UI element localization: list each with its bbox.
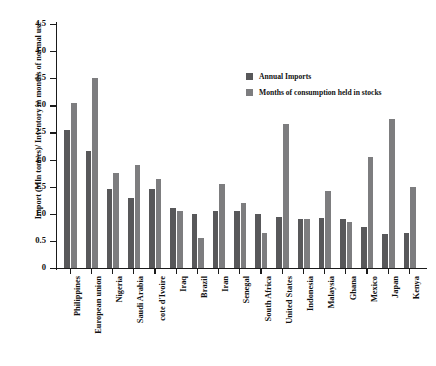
bar	[241, 203, 247, 268]
bar	[255, 214, 261, 268]
x-axis-category-label: Iran	[221, 276, 230, 292]
bar	[213, 211, 219, 268]
y-axis-tick: 4.0	[50, 51, 56, 52]
bar-group	[62, 24, 83, 268]
bar-group	[359, 24, 380, 268]
legend-item-months-of-consumption: Months of consumption held in stocks	[246, 88, 382, 97]
x-axis-category-label: Ghana	[349, 276, 358, 300]
bar-group	[274, 24, 295, 268]
x-axis-tick	[197, 268, 198, 274]
bar-group	[190, 24, 211, 268]
x-axis-category-label: Japan	[391, 276, 400, 298]
bar-group	[380, 24, 401, 268]
bar	[325, 191, 331, 268]
bar	[149, 189, 155, 268]
bar-group	[168, 24, 189, 268]
plot-area: 00.51.01.52.02.53.03.54.04.5PhilippinesE…	[56, 24, 426, 268]
y-axis-line	[56, 22, 57, 270]
x-axis-tick	[409, 268, 410, 274]
x-axis-category-label: Mexico	[370, 276, 379, 302]
bar-group	[147, 24, 168, 268]
x-axis-category-label: Malaysia	[327, 276, 336, 309]
y-axis-tick: 3.5	[50, 78, 56, 79]
bar	[64, 130, 70, 268]
bar	[276, 217, 282, 269]
x-axis-category-label: Senegal	[242, 276, 251, 303]
x-axis-category-label: Philippines	[73, 276, 82, 316]
x-axis-tick	[70, 268, 71, 274]
y-axis-tick: 2.0	[50, 160, 56, 161]
bar	[135, 165, 141, 268]
legend-swatch-icon	[246, 89, 253, 96]
x-axis-category-label: South Africa	[264, 276, 273, 321]
y-axis-tick: 1.5	[50, 187, 56, 188]
bar-group	[232, 24, 253, 268]
x-axis-category-label: cote d'Ivoire	[158, 276, 167, 321]
bar	[382, 234, 388, 268]
legend-item-annual-imports: Annual Imports	[246, 72, 382, 81]
bar	[234, 211, 240, 268]
x-axis-tick	[133, 268, 134, 274]
x-axis-category-label: United States	[285, 276, 294, 324]
bar	[177, 211, 183, 268]
bar	[198, 238, 204, 268]
legend-swatch-icon	[246, 73, 253, 80]
bar	[389, 119, 395, 268]
x-axis-category-label: Brazil	[200, 276, 209, 298]
x-axis-tick	[91, 268, 92, 274]
y-axis-tick: 2.5	[50, 132, 56, 133]
bar	[410, 187, 416, 268]
y-axis-tick: 0	[50, 268, 56, 269]
bar-group	[105, 24, 126, 268]
y-axis-tick-label: 1.5	[35, 181, 46, 191]
x-axis-category-label: Nigeria	[115, 276, 124, 303]
bar-group	[317, 24, 338, 268]
bar	[319, 218, 325, 268]
bar	[71, 103, 77, 268]
y-axis-tick: 3.0	[50, 105, 56, 106]
bar	[192, 214, 198, 268]
x-axis-category-label: Iraq	[179, 276, 188, 292]
bar	[262, 233, 268, 268]
y-axis-tick-label: 3.5	[35, 72, 46, 82]
bar	[170, 208, 176, 268]
bar	[107, 189, 113, 268]
bar-group	[402, 24, 423, 268]
y-axis-tick-label: 0	[42, 262, 46, 272]
x-axis-category-label: Saudi Arabia	[136, 276, 145, 323]
y-axis-tick: 1.0	[50, 214, 56, 215]
bar	[128, 198, 134, 268]
x-axis-tick	[388, 268, 389, 274]
bar	[92, 78, 98, 268]
x-axis-category-label: European union	[94, 276, 103, 334]
bar	[113, 173, 119, 268]
bar-group	[126, 24, 147, 268]
x-axis-category-label: Indonesia	[306, 276, 315, 311]
bar	[368, 157, 374, 268]
bar-group	[211, 24, 232, 268]
x-axis-tick	[324, 268, 325, 274]
x-axis-tick	[366, 268, 367, 274]
bar-group	[253, 24, 274, 268]
y-axis-tick-label: 0.5	[35, 235, 46, 245]
y-axis-tick-label: 4.5	[35, 18, 46, 28]
y-axis-tick-label: 2.0	[35, 154, 46, 164]
x-axis-tick	[218, 268, 219, 274]
bar	[361, 227, 367, 268]
bar-group	[338, 24, 359, 268]
x-axis-tick	[303, 268, 304, 274]
bar	[283, 124, 289, 268]
x-axis-tick	[239, 268, 240, 274]
bar-chart: Import (Mln tonnes)/ Inventory in months…	[0, 0, 436, 366]
x-axis-tick	[345, 268, 346, 274]
y-axis-tick-label: 1.0	[35, 208, 46, 218]
legend-label: Months of consumption held in stocks	[259, 88, 382, 97]
legend-label: Annual Imports	[259, 72, 311, 81]
x-axis-tick	[112, 268, 113, 274]
bar	[304, 219, 310, 268]
bar-group	[84, 24, 105, 268]
bar	[298, 219, 304, 268]
bar	[156, 179, 162, 268]
bar	[404, 233, 410, 268]
bar	[86, 151, 92, 268]
